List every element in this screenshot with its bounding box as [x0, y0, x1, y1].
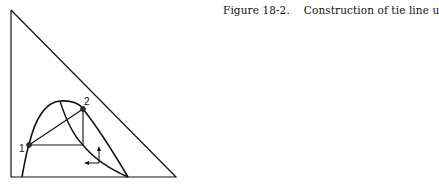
figure-number: Figure 18-2.	[223, 4, 290, 16]
point-2-label: 2	[84, 96, 90, 107]
tie-line	[29, 109, 83, 145]
point-1-marker	[27, 143, 32, 148]
point-2-marker	[81, 107, 86, 112]
conjugate-line	[60, 101, 128, 177]
ternary-diagram: 1 2	[0, 0, 200, 189]
figure-caption: Figure 18-2.Construction of tie line usi…	[223, 4, 439, 16]
ternary-triangle	[11, 10, 176, 177]
figure-caption-text: Construction of tie line using conjugate…	[304, 4, 439, 16]
point-1-label: 1	[19, 143, 25, 154]
